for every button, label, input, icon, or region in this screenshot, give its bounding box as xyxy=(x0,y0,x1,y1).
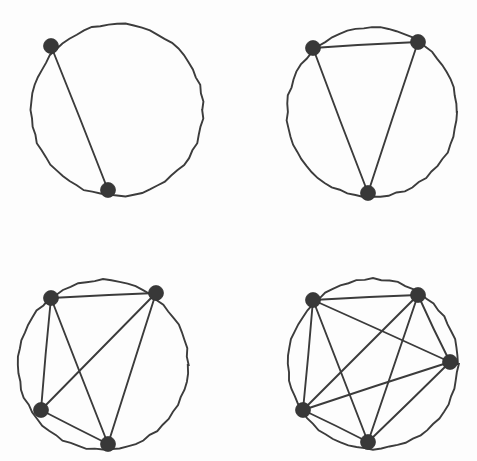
graph-edge xyxy=(303,295,418,410)
figures-root xyxy=(18,24,459,452)
graph-figure-k4 xyxy=(18,279,189,451)
graph-vertex xyxy=(361,186,376,201)
graph-edge xyxy=(368,362,450,442)
graph-edge xyxy=(368,295,418,442)
graph-edge xyxy=(303,300,313,410)
graph-edge xyxy=(41,293,156,410)
graph-vertex xyxy=(443,355,458,370)
graph-figure-k2 xyxy=(30,24,203,198)
graph-vertex xyxy=(306,41,321,56)
complete-graphs-figure xyxy=(0,0,477,461)
graph-edge xyxy=(313,48,368,193)
graph-edge xyxy=(313,295,418,300)
graph-edge xyxy=(41,410,108,444)
graph-vertex xyxy=(44,291,59,306)
graph-edge xyxy=(51,46,108,190)
graph-vertex xyxy=(101,437,116,452)
graph-edge xyxy=(108,293,156,444)
graph-edge xyxy=(51,293,156,298)
graph-edge xyxy=(313,42,418,48)
graph-vertex xyxy=(296,403,311,418)
graph-edge xyxy=(368,42,418,193)
graph-edge xyxy=(303,362,450,410)
diagram-page xyxy=(0,0,477,461)
graph-vertex xyxy=(306,293,321,308)
graph-figure-k3 xyxy=(287,27,457,200)
graph-vertex xyxy=(34,403,49,418)
graph-circle-k4 xyxy=(18,279,189,449)
graph-edge xyxy=(41,298,51,410)
graph-vertex xyxy=(411,35,426,50)
graph-vertex xyxy=(361,435,376,450)
graph-vertex xyxy=(44,39,59,54)
graph-figure-k5 xyxy=(288,278,459,450)
graph-vertex xyxy=(101,183,116,198)
graph-vertex xyxy=(411,288,426,303)
graph-vertex xyxy=(149,286,164,301)
